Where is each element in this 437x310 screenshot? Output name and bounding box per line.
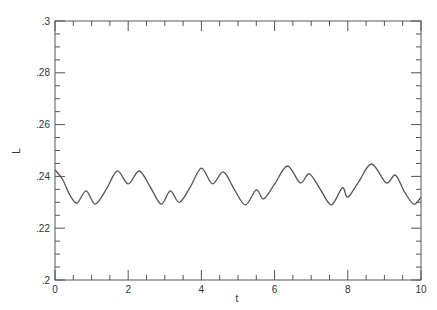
x-tick-label: 10 <box>415 284 427 295</box>
x-tick-label: 4 <box>199 284 205 295</box>
axis-ticks <box>55 21 421 280</box>
line-chart: 0246810.2.22.24.26.28.3 t L <box>0 0 437 310</box>
x-tick-label: 2 <box>125 284 131 295</box>
plot-frame <box>55 21 421 280</box>
x-tick-label: 8 <box>345 284 351 295</box>
y-axis-label: L <box>11 148 22 154</box>
x-tick-label: 0 <box>52 284 58 295</box>
y-tick-label: .26 <box>36 119 50 130</box>
data-line <box>55 164 421 205</box>
y-tick-label: .28 <box>36 67 50 78</box>
plot-border <box>55 21 421 280</box>
y-tick-label: .2 <box>42 275 51 286</box>
y-tick-label: .3 <box>42 16 51 27</box>
axis-tick-labels: 0246810.2.22.24.26.28.3 <box>36 16 427 296</box>
y-tick-label: .24 <box>36 171 50 182</box>
x-axis-label: t <box>236 293 239 304</box>
y-tick-label: .22 <box>36 223 50 234</box>
x-tick-label: 6 <box>272 284 278 295</box>
